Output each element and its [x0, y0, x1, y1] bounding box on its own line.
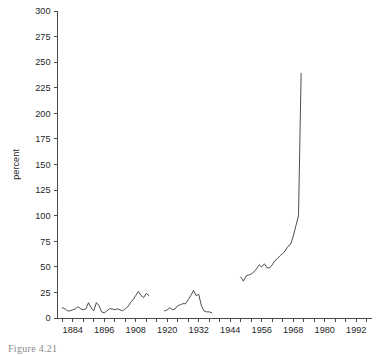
- y-axis-ticks: [54, 11, 58, 318]
- y-axis-tick-labels: 0255075100125150175200225250275300: [35, 6, 50, 323]
- x-axis-tick-labels: 1884189619081920193219441956196819801992: [63, 325, 367, 335]
- y-tick-label-300: 300: [35, 6, 50, 16]
- x-tick-label-1944: 1944: [220, 325, 240, 335]
- x-tick-label-1968: 1968: [283, 325, 303, 335]
- x-tick-label-1980: 1980: [315, 325, 335, 335]
- x-tick-label-1956: 1956: [252, 325, 272, 335]
- figure-caption: Figure 4.21: [8, 343, 57, 355]
- y-axis: 0255075100125150175200225250275300 perce…: [11, 6, 57, 323]
- y-tick-label-0: 0: [45, 313, 50, 323]
- y-tick-label-100: 100: [35, 211, 50, 221]
- line-chart: 0255075100125150175200225250275300 perce…: [0, 0, 383, 355]
- data-series-group: [62, 73, 301, 312]
- x-tick-label-1908: 1908: [126, 325, 146, 335]
- figure-container: 0255075100125150175200225250275300 perce…: [0, 0, 383, 355]
- y-tick-label-50: 50: [40, 262, 50, 272]
- x-tick-label-1896: 1896: [94, 325, 114, 335]
- data-line-segment-2: [165, 290, 212, 313]
- y-tick-label-125: 125: [35, 185, 50, 195]
- y-axis-title: percent: [11, 149, 21, 180]
- x-tick-label-1920: 1920: [157, 325, 177, 335]
- y-tick-label-175: 175: [35, 134, 50, 144]
- y-tick-label-250: 250: [35, 57, 50, 67]
- x-tick-label-1992: 1992: [346, 325, 366, 335]
- x-axis: 1884189619081920193219441956196819801992: [57, 318, 372, 335]
- x-axis-ticks: [62, 318, 367, 322]
- x-tick-label-1932: 1932: [189, 325, 209, 335]
- y-tick-label-25: 25: [40, 288, 50, 298]
- y-tick-label-225: 225: [35, 83, 50, 93]
- data-line-segment-1: [62, 291, 149, 312]
- y-tick-label-75: 75: [40, 237, 50, 247]
- data-line-segment-3: [241, 73, 301, 281]
- y-tick-label-150: 150: [35, 160, 50, 170]
- y-tick-label-200: 200: [35, 109, 50, 119]
- x-tick-label-1884: 1884: [63, 325, 83, 335]
- y-tick-label-275: 275: [35, 32, 50, 42]
